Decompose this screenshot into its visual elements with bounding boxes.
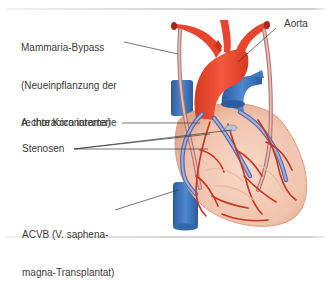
leader-mammaria xyxy=(124,42,178,54)
label-aorta: Aorta xyxy=(284,18,308,31)
label-stenosen: Stenosen xyxy=(22,143,64,156)
label-mammaria-line2: (Neueinpflanzung der xyxy=(21,80,117,93)
label-acvb: ACVB (V. saphena- magna-Transplantat) xyxy=(22,204,114,282)
label-rechte-koronararterie: rechte Koronararterie xyxy=(22,117,117,130)
label-acvb-line1: ACVB (V. saphena- xyxy=(22,229,114,242)
label-mammaria-line1: Mammaria-Bypass xyxy=(21,42,117,55)
label-acvb-line2: magna-Transplantat) xyxy=(22,267,114,280)
leader-acvb xyxy=(115,190,178,210)
